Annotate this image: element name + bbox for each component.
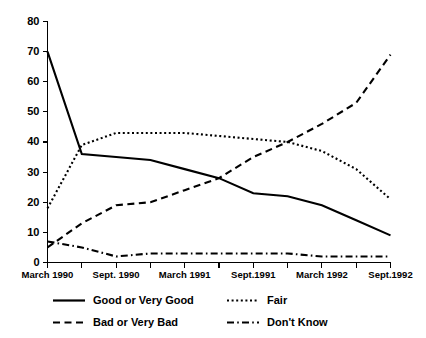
series-line-bad-or-very-bad bbox=[48, 55, 391, 248]
legend-label-good-or-very-good: Good or Very Good bbox=[93, 294, 194, 306]
y-tick-label: 20 bbox=[27, 196, 39, 208]
legend-label-bad-or-very-bad: Bad or Very Bad bbox=[93, 316, 178, 328]
chart-canvas: 01020304050607080 March 1990Sept. 1990Ma… bbox=[0, 0, 426, 338]
line-chart: 01020304050607080 March 1990Sept. 1990Ma… bbox=[0, 0, 426, 338]
x-tick-label: Sept.1992 bbox=[368, 269, 412, 280]
y-tick-label: 30 bbox=[27, 166, 39, 178]
x-tick-label: March 1991 bbox=[159, 269, 211, 280]
x-tick-label: March 1992 bbox=[296, 269, 348, 280]
y-tick-label: 0 bbox=[33, 256, 39, 268]
series-line-fair bbox=[48, 133, 391, 208]
legend-label-fair: Fair bbox=[267, 294, 288, 306]
series-line-good-or-very-good bbox=[48, 52, 391, 236]
y-tick-label: 50 bbox=[27, 105, 39, 117]
y-tick-label: 40 bbox=[27, 135, 39, 147]
y-axis: 01020304050607080 bbox=[27, 15, 47, 268]
y-tick-label: 80 bbox=[27, 15, 39, 27]
legend-label-don-t-know: Don't Know bbox=[267, 316, 328, 328]
x-tick-label: Sept.1991 bbox=[231, 269, 276, 280]
x-tick-label: March 1990 bbox=[22, 269, 74, 280]
x-axis: March 1990Sept. 1990March 1991Sept.1991M… bbox=[22, 263, 413, 281]
series-lines bbox=[48, 52, 391, 257]
y-tick-label: 70 bbox=[27, 45, 39, 57]
y-tick-label: 60 bbox=[27, 75, 39, 87]
chart-legend: Good or Very GoodFairBad or Very BadDon'… bbox=[53, 294, 328, 328]
y-tick-label: 10 bbox=[27, 226, 39, 238]
x-tick-label: Sept. 1990 bbox=[93, 269, 140, 280]
series-line-don-t-know bbox=[48, 241, 391, 256]
